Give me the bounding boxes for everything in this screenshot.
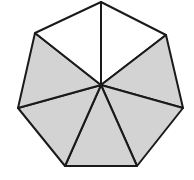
heptagon-fraction-diagram: [0, 0, 194, 180]
